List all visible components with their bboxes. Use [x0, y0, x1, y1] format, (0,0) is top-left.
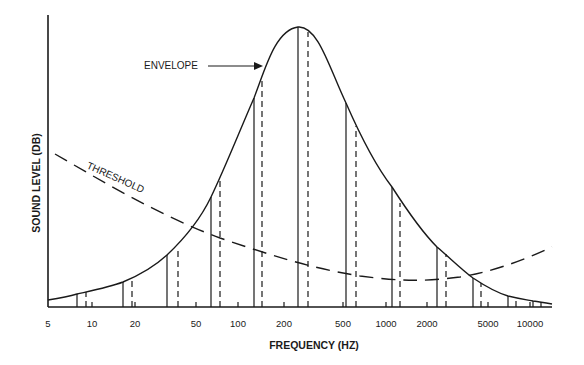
x-tick-label: 10000	[517, 318, 543, 329]
sound-spectrum-chart: 510205010020050010002000500010000 ENVELO…	[0, 0, 584, 365]
x-axis-label: FREQUENCY (HZ)	[269, 339, 359, 351]
x-tick-label: 20	[130, 318, 141, 329]
arrow-head-icon	[254, 62, 263, 70]
x-tick-label: 5	[45, 318, 50, 329]
x-axis-ticks: 510205010020050010002000500010000	[45, 302, 543, 329]
threshold-curve	[55, 154, 552, 280]
x-tick-label: 500	[335, 318, 351, 329]
x-tick-label: 2000	[416, 318, 437, 329]
x-tick-label: 100	[230, 318, 246, 329]
x-tick-label: 10	[87, 318, 98, 329]
envelope-label: ENVELOPE	[144, 60, 198, 71]
x-tick-label: 1000	[375, 318, 396, 329]
x-tick-label: 50	[191, 318, 202, 329]
x-tick-label: 5000	[477, 318, 498, 329]
y-axis-label: SOUND LEVEL (DB)	[30, 133, 42, 233]
x-tick-label: 200	[276, 318, 292, 329]
